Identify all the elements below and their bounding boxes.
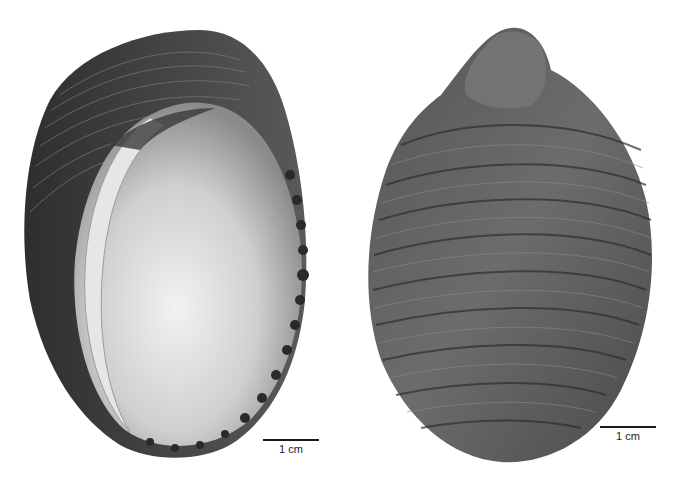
- scale-bar-right: 1 cm: [600, 426, 656, 442]
- shell-aperture-view: [0, 0, 341, 486]
- scale-bar-label: 1 cm: [263, 443, 319, 455]
- shell-dorsal-view: [341, 0, 682, 486]
- scale-bar-label: 1 cm: [600, 430, 656, 442]
- scale-bar-line: [600, 426, 656, 428]
- scale-bar-line: [263, 439, 319, 441]
- scale-bar-left: 1 cm: [263, 439, 319, 455]
